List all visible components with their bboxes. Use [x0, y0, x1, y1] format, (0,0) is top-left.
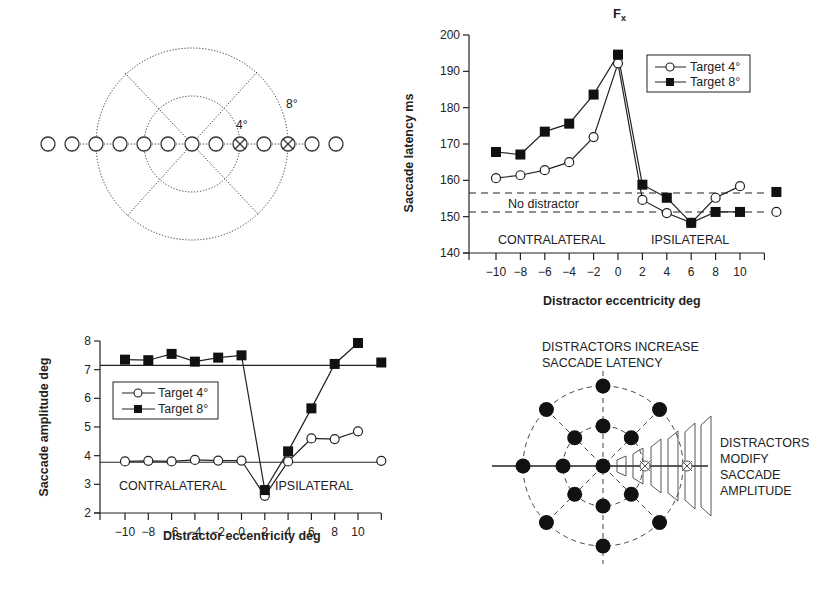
filled-square-marker-icon — [237, 350, 247, 360]
distractor-dot — [652, 402, 667, 417]
distractor-location-marker — [329, 137, 343, 151]
open-circle-marker-icon — [492, 174, 501, 183]
filled-square-marker-icon — [306, 403, 316, 413]
open-circle-marker-icon — [307, 434, 316, 443]
region-label-ipsilateral: IPSILATERAL — [275, 479, 353, 493]
x-tick-label: 2 — [639, 265, 646, 279]
distractor-dot — [652, 515, 667, 530]
amplitude-note-line3: SACCADE — [720, 468, 780, 482]
open-circle-marker-icon — [540, 166, 549, 175]
filled-square-marker-icon — [735, 207, 745, 217]
filled-square-marker-icon — [376, 358, 386, 368]
open-circle-marker-icon — [284, 457, 293, 466]
y-tick-label: 160 — [440, 173, 460, 187]
amplitude-note-line4: AMPLITUDE — [720, 484, 792, 498]
x-tick-label: 10 — [351, 525, 365, 539]
x-tick-label: −10 — [486, 265, 507, 279]
distractor-dot — [567, 430, 582, 445]
open-circle-marker-icon — [638, 195, 647, 204]
distractor-location-marker — [209, 137, 223, 151]
x-tick-label: 8 — [331, 525, 338, 539]
open-circle-marker-icon — [614, 59, 623, 68]
region-label-ipsilateral: IPSILATERAL — [651, 233, 729, 247]
filled-square-marker-icon — [540, 127, 550, 137]
amplitude-chart: 2345678−10−8−6−4−20246810 CONTRALATERAL … — [37, 334, 386, 543]
distractor-dot — [624, 430, 639, 445]
y-tick-label: 6 — [84, 391, 91, 405]
x-tick-label: 10 — [733, 265, 747, 279]
distractor-dot — [624, 487, 639, 502]
legend-target-4: Target 4° — [690, 60, 740, 74]
distractor-dot — [596, 539, 611, 554]
distractor-effects-diagram: DISTRACTORS INCREASE SACCADE LATENCY DIS… — [492, 340, 809, 564]
filled-square-marker-icon — [613, 50, 623, 60]
y-tick-label: 180 — [440, 101, 460, 115]
legend-target-8: Target 8° — [158, 402, 208, 416]
open-circle-marker-icon — [666, 63, 674, 71]
peak-annotation-fx: Fx — [613, 6, 626, 23]
open-circle-marker-icon — [736, 182, 745, 191]
distractor-location-marker — [113, 137, 127, 151]
x-tick-label: −8 — [514, 265, 528, 279]
amplitude-note-line1: DISTRACTORS — [720, 436, 809, 450]
filled-square-marker-icon — [167, 349, 177, 359]
y-axis-label: Saccade latency ms — [402, 94, 416, 213]
x-tick-label: 4 — [663, 265, 670, 279]
filled-square-marker-icon — [134, 405, 142, 413]
open-circle-marker-icon — [354, 427, 363, 436]
x-tick-label: −10 — [115, 525, 136, 539]
y-axis-label: Saccade amplitude deg — [37, 358, 51, 497]
distractor-dot — [539, 402, 554, 417]
filled-square-marker-icon — [190, 357, 200, 367]
open-circle-marker-icon — [190, 455, 199, 464]
open-circle-marker-icon — [565, 158, 574, 167]
ring-label-8: 8° — [286, 97, 298, 111]
latency-note-line1: DISTRACTORS INCREASE — [542, 340, 699, 354]
filled-square-marker-icon — [771, 187, 781, 197]
y-tick-label: 170 — [440, 137, 460, 151]
y-tick-label: 200 — [440, 28, 460, 42]
x-tick-label: −4 — [562, 265, 576, 279]
filled-square-marker-icon — [283, 446, 293, 456]
region-label-contralateral: CONTRALATERAL — [119, 479, 226, 493]
stimulus-layout-diagram: 4° 8° — [41, 48, 343, 240]
x-tick-label: −6 — [538, 265, 552, 279]
open-circle-marker-icon — [134, 389, 142, 397]
distractor-location-marker — [89, 137, 103, 151]
open-circle-marker-icon — [711, 193, 720, 202]
x-tick-label: −8 — [141, 525, 155, 539]
distractor-dot — [596, 419, 611, 434]
open-circle-marker-icon — [330, 435, 339, 444]
amplitude-note-line2: MODIFY — [720, 452, 769, 466]
x-tick-label: −2 — [587, 265, 601, 279]
distractor-location-marker — [305, 137, 319, 151]
open-circle-marker-icon — [237, 456, 246, 465]
open-circle-marker-icon — [167, 457, 176, 466]
open-circle-marker-icon — [772, 207, 781, 216]
y-tick-label: 4 — [84, 449, 91, 463]
y-tick-label: 140 — [440, 246, 460, 260]
y-tick-label: 2 — [84, 506, 91, 520]
filled-square-marker-icon — [515, 150, 525, 160]
distractor-dot — [539, 515, 554, 530]
filled-square-marker-icon — [353, 338, 363, 348]
filled-square-marker-icon — [260, 485, 270, 495]
figure: 4° 8° 140150160170180190200−10−8−6−4−202… — [0, 0, 839, 589]
x-axis-label: Distractor eccentricity deg — [163, 529, 321, 543]
distractor-location-marker — [185, 137, 199, 151]
legend-target-4: Target 4° — [158, 386, 208, 400]
open-circle-marker-icon — [377, 456, 386, 465]
filled-square-marker-icon — [686, 218, 696, 228]
open-circle-marker-icon — [144, 456, 153, 465]
distractor-dot — [596, 379, 611, 394]
x-tick-label: 8 — [712, 265, 719, 279]
open-circle-marker-icon — [516, 171, 525, 180]
filled-square-marker-icon — [637, 180, 647, 190]
distractor-dot — [556, 459, 571, 474]
y-tick-label: 3 — [84, 477, 91, 491]
filled-square-marker-icon — [589, 90, 599, 100]
open-circle-marker-icon — [662, 209, 671, 218]
distractor-dot — [596, 459, 611, 474]
filled-square-marker-icon — [330, 359, 340, 369]
open-circle-marker-icon — [121, 457, 130, 466]
